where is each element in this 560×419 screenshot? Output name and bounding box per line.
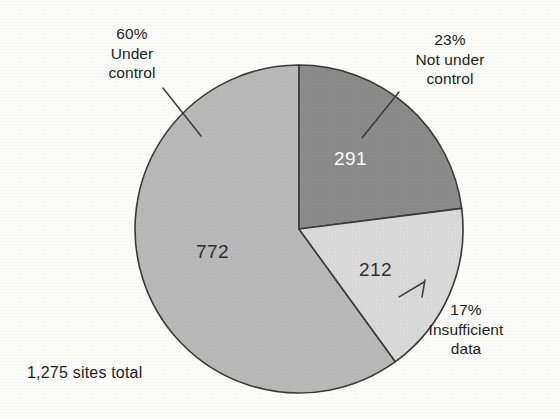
chart-caption-total: 1,275 sites total: [27, 364, 142, 382]
pie-chart: 772 291 212 60% Under control 23% Not un…: [0, 0, 560, 419]
callout-not-under-control: 23% Not under control: [382, 30, 518, 89]
slice-value-under-control: 772: [196, 241, 229, 262]
slice-value-not-under-control: 291: [334, 148, 367, 169]
callout-under-control: 60% Under control: [74, 24, 190, 83]
callout-insufficient-data: 17% Insufficient data: [400, 300, 532, 359]
slice-value-insufficient-data: 212: [359, 259, 392, 280]
pie-slice-not-under-control[interactable]: [299, 65, 462, 229]
